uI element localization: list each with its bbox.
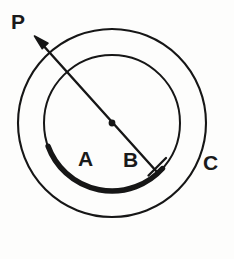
arrowhead-icon <box>35 36 49 49</box>
label-p: P <box>11 11 25 32</box>
label-b: B <box>123 149 138 170</box>
label-c: C <box>203 152 218 173</box>
figure-container: P A B C <box>0 0 234 259</box>
thick-arc <box>48 146 162 191</box>
label-a: A <box>78 148 93 169</box>
center-point <box>109 120 116 127</box>
radius-vector-line <box>41 43 157 172</box>
circles-diagram <box>0 0 234 259</box>
